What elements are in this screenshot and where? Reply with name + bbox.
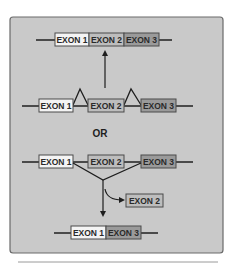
exon-label: EXON 3 <box>143 101 174 111</box>
mature-mrna-full: EXON 1 EXON 2 EXON 3 <box>36 33 172 46</box>
alternative-splicing-diagram: EXON 1 EXON 2 EXON 3 EXON 1 EXON 2 EXON … <box>0 0 228 264</box>
diagram-panel <box>10 17 223 253</box>
exon-label: EXON 1 <box>56 35 87 45</box>
exon-label: EXON 1 <box>73 228 104 238</box>
exon-label: EXON 2 <box>90 101 121 111</box>
exon-label: EXON 1 <box>40 157 71 167</box>
exon-label: EXON 2 <box>90 157 121 167</box>
exon-label: EXON 2 <box>129 196 160 206</box>
exon-label: EXON 3 <box>143 157 174 167</box>
exon-label: EXON 1 <box>40 101 71 111</box>
or-label: OR <box>93 128 109 139</box>
exon-label: EXON 3 <box>126 35 157 45</box>
exon-label: EXON 2 <box>91 35 122 45</box>
excised-exon: EXON 2 <box>126 194 163 207</box>
exon-label: EXON 3 <box>108 228 139 238</box>
